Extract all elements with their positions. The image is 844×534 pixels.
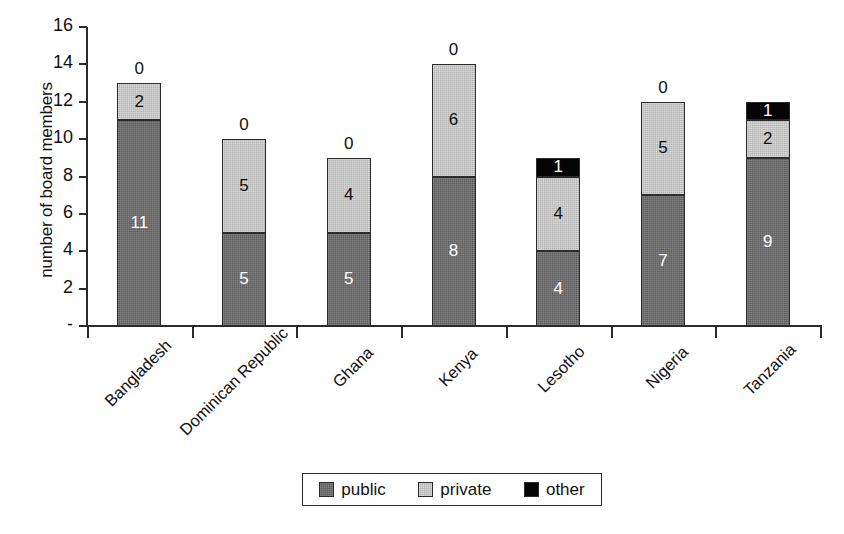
y-axis-tick-mark	[79, 176, 87, 178]
bar-stack: 441	[536, 27, 580, 326]
bar-segment-private: 2	[117, 83, 161, 120]
y-axis-tick-mark	[79, 250, 87, 252]
bar-top-label: 0	[327, 134, 371, 154]
legend-swatch-public-icon	[319, 482, 334, 497]
y-axis-tick-mark	[79, 63, 87, 65]
y-axis-tick-label: 8	[63, 165, 73, 186]
y-axis-tick-label: -	[67, 314, 73, 335]
bar-segment-public: 5	[222, 233, 266, 326]
bar-segment-other: 1	[746, 102, 790, 121]
x-axis-tick-mark	[192, 327, 194, 338]
y-axis-tick-label: 6	[63, 202, 73, 223]
legend-label-public: public	[341, 480, 385, 500]
bar-stack: 540	[327, 27, 371, 326]
bar-segment-private: 4	[327, 158, 371, 233]
y-axis-tick-label: 4	[63, 239, 73, 260]
bar-top-label: 0	[432, 40, 476, 60]
y-axis-tick-mark	[79, 213, 87, 215]
bar-segment-private: 5	[222, 139, 266, 232]
x-axis-tick-mark	[296, 327, 298, 338]
y-axis-tick-label: 10	[53, 127, 73, 148]
bar-segment-public: 8	[432, 177, 476, 327]
bar-segment-public: 9	[746, 158, 790, 326]
x-axis-tick-mark	[820, 327, 822, 338]
y-axis-tick-mark	[79, 26, 87, 28]
bar-segment-public: 11	[117, 120, 161, 326]
bar-segment-private: 6	[432, 64, 476, 176]
x-axis-category-label: Kenya	[435, 344, 481, 390]
bar-stack: 921	[746, 27, 790, 326]
y-axis-tick-label: 16	[53, 15, 73, 36]
legend-label-private: private	[440, 480, 491, 500]
bar-top-label: 0	[117, 59, 161, 79]
bar-stack: 860	[432, 27, 476, 326]
x-axis-tick-mark	[611, 327, 613, 338]
y-axis-tick-label: 12	[53, 90, 73, 111]
y-axis-tick-mark	[79, 138, 87, 140]
bar-stack: 750	[641, 27, 685, 326]
bar-top-label: 0	[641, 78, 685, 98]
x-axis-category-label: Lesotho	[534, 341, 588, 395]
legend-swatch-other-icon	[524, 482, 539, 497]
x-axis-tick-mark	[715, 327, 717, 338]
legend-label-other: other	[546, 480, 585, 500]
legend-swatch-private-icon	[418, 482, 433, 497]
y-axis-tick-mark	[79, 325, 87, 327]
x-axis-tick-mark	[87, 327, 89, 338]
bar-segment-public: 4	[536, 251, 580, 326]
stacked-bar-chart: number of board members 161412108642- 11…	[0, 0, 844, 534]
x-axis-tick-mark	[506, 327, 508, 338]
x-axis-category-label: Bangladesh	[101, 336, 175, 410]
y-axis-tick-mark	[79, 101, 87, 103]
bar-segment-public: 7	[641, 195, 685, 326]
y-axis-title: number of board members	[37, 40, 57, 320]
x-axis-category-label: Dominican Republic	[176, 323, 292, 439]
bar-segment-public: 5	[327, 233, 371, 326]
x-axis-category-label: Tanzania	[740, 340, 800, 400]
bar-segment-private: 4	[536, 177, 580, 252]
legend: public private other	[302, 473, 602, 506]
bar-top-label: 0	[222, 115, 266, 135]
x-axis-tick-mark	[401, 327, 403, 338]
y-axis-tick-label: 2	[63, 277, 73, 298]
x-axis-category-label: Ghana	[329, 343, 377, 391]
y-axis-tick-label: 14	[53, 52, 73, 73]
bar-stack: 550	[222, 27, 266, 326]
legend-item: public	[319, 480, 385, 500]
x-axis-category-label: Nigeria	[642, 343, 692, 393]
bar-segment-private: 2	[746, 120, 790, 157]
bar-segment-private: 5	[641, 102, 685, 195]
legend-item: private	[418, 480, 491, 500]
legend-item: other	[524, 480, 585, 500]
bar-segment-other: 1	[536, 158, 580, 177]
bar-stack: 1120	[117, 27, 161, 326]
y-axis-tick-mark	[79, 288, 87, 290]
